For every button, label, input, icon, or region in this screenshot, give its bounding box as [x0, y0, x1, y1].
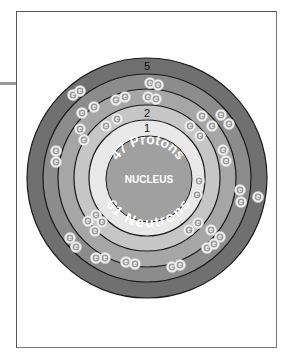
svg-text:e: e [227, 120, 231, 127]
nucleus: 47 Protons NUCLEUS 61 Neutrons [103, 131, 192, 231]
electron-shell4: e [130, 259, 141, 270]
svg-text:e: e [115, 115, 119, 122]
svg-text:e: e [103, 254, 107, 261]
svg-text:e: e [197, 177, 201, 184]
svg-text:e: e [212, 240, 216, 247]
nucleus-label: NUCLEUS [125, 174, 174, 185]
svg-text:e: e [124, 258, 128, 265]
svg-text:e: e [178, 261, 182, 268]
svg-text:e: e [146, 93, 150, 100]
electron-shell2: e [185, 121, 196, 132]
svg-text:e: e [170, 263, 174, 270]
svg-text:e: e [54, 158, 58, 165]
svg-text:e: e [54, 147, 58, 154]
svg-text:e: e [187, 226, 191, 233]
svg-text:e: e [195, 191, 199, 198]
svg-text:e: e [209, 226, 213, 233]
electron-shell3: e [77, 108, 88, 119]
electron-shell3: e [90, 226, 101, 237]
electron-shell2: e [193, 218, 204, 229]
svg-text:e: e [123, 93, 127, 100]
svg-text:e: e [154, 95, 158, 102]
svg-text:e: e [104, 122, 108, 129]
electron-shell2: e [97, 217, 108, 228]
electron-shell4: e [51, 146, 62, 157]
svg-text:e: e [218, 233, 222, 240]
electron-shell4: e [75, 86, 86, 97]
electron-shell3: e [206, 225, 217, 236]
electron-shell3: e [207, 121, 218, 132]
electron-shell4: e [175, 260, 186, 271]
svg-text:e: e [78, 125, 82, 132]
svg-text:e: e [200, 112, 204, 119]
svg-text:e: e [80, 109, 84, 116]
electron-shell5: e [253, 192, 264, 203]
svg-text:e: e [114, 96, 118, 103]
electron-shell4: e [236, 197, 247, 208]
electron-shell3: e [209, 239, 220, 250]
svg-text:e: e [224, 157, 228, 164]
electron-shell2: e [112, 114, 123, 125]
svg-text:e: e [74, 243, 78, 250]
electron-shell3: e [218, 145, 229, 156]
svg-text:e: e [86, 217, 90, 224]
svg-text:e: e [92, 103, 96, 110]
electron-shell1: e [192, 190, 203, 201]
svg-text:e: e [219, 111, 223, 118]
svg-text:e: e [100, 218, 104, 225]
svg-text:e: e [188, 122, 192, 129]
electron-shell3: e [151, 94, 162, 105]
electron-shell2: e [101, 121, 112, 132]
svg-text:e: e [94, 254, 98, 261]
electron-shell4: e [216, 110, 227, 121]
svg-text:e: e [239, 198, 243, 205]
electron-shell3: e [221, 156, 232, 167]
electron-shell1: e [194, 176, 205, 187]
svg-text:e: e [156, 81, 160, 88]
svg-text:e: e [256, 193, 260, 200]
shell-2-label: 2 [144, 107, 150, 119]
atom-diagram: 47 Protons NUCLEUS 61 Neutrons 12345 eee… [0, 0, 293, 363]
shell-5-label: 5 [144, 60, 150, 72]
shell-1-label: 1 [144, 122, 150, 134]
electron-shell3: e [120, 92, 131, 103]
electron-shell4: e [71, 242, 82, 253]
electron-shell4: e [153, 80, 164, 91]
svg-text:e: e [148, 79, 152, 86]
svg-text:e: e [198, 132, 202, 139]
electron-shell3: e [89, 102, 100, 113]
svg-text:e: e [210, 122, 214, 129]
svg-text:e: e [133, 260, 137, 267]
electron-shell2: e [195, 131, 206, 142]
svg-text:e: e [196, 219, 200, 226]
svg-text:e: e [238, 186, 242, 193]
svg-text:e: e [221, 146, 225, 153]
electron-shell4: e [100, 253, 111, 264]
electron-shell2: e [184, 225, 195, 236]
svg-text:e: e [94, 211, 98, 218]
svg-text:e: e [78, 87, 82, 94]
svg-text:e: e [82, 136, 86, 143]
electron-shell3: e [75, 124, 86, 135]
electron-shell4: e [235, 185, 246, 196]
electron-shell4: e [224, 119, 235, 130]
electron-shell3: e [79, 135, 90, 146]
svg-text:e: e [93, 227, 97, 234]
electron-shell4: e [51, 157, 62, 168]
electron-shell3: e [83, 216, 94, 227]
svg-text:e: e [68, 234, 72, 241]
electron-shell3: e [197, 111, 208, 122]
